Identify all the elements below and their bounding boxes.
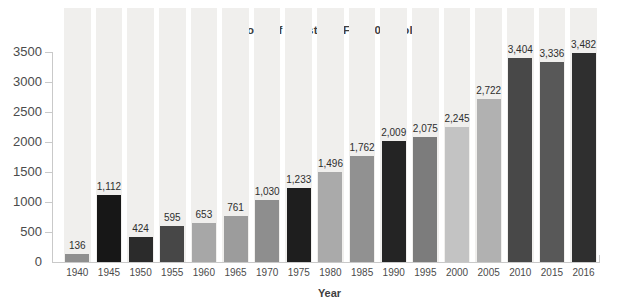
y-tick-label: 1500 (0, 165, 42, 179)
bar-cell: 761 (222, 8, 249, 262)
x-tick-label: 1985 (349, 267, 376, 278)
bar-value-label: 1,030 (255, 186, 280, 197)
x-tick-label: 2005 (475, 267, 502, 278)
bar-chart: Billions of constant (FY 2009) dollars 0… (0, 0, 619, 308)
bar-cell: 1,233 (285, 8, 312, 262)
x-tick-label: 1950 (127, 267, 154, 278)
x-tick-label: 1990 (380, 267, 407, 278)
bar (572, 53, 596, 262)
x-tick-label: 1965 (222, 267, 249, 278)
bar (192, 223, 216, 262)
bar-value-label: 1,762 (350, 142, 375, 153)
bar-cell: 3,482 (570, 8, 597, 262)
bar-value-label: 1,233 (286, 174, 311, 185)
bar (350, 156, 374, 262)
x-tick-label: 2016 (570, 267, 597, 278)
bar-cell: 1,030 (254, 8, 281, 262)
x-axis-labels: 1940194519501955196019651970197519801985… (64, 267, 597, 278)
bar-cell: 3,336 (539, 8, 566, 262)
x-tick-label: 1960 (191, 267, 218, 278)
y-axis-tick (45, 202, 52, 203)
bar-cell: 1,762 (349, 8, 376, 262)
x-axis-right-tick (599, 255, 600, 262)
bar-value-label: 1,112 (97, 181, 121, 192)
bar-cell: 3,404 (507, 8, 534, 262)
bar (445, 127, 469, 262)
y-axis-tick-labels: 0500100015002000250030003500 (0, 0, 46, 308)
x-tick-label: 1940 (64, 267, 91, 278)
bar-cell: 653 (191, 8, 218, 262)
bar-cell: 424 (127, 8, 154, 262)
bar-cell: 136 (64, 8, 91, 262)
x-tick-label: 1975 (285, 267, 312, 278)
bar (97, 195, 121, 262)
x-tick-label: 1955 (159, 267, 186, 278)
y-tick-label: 0 (0, 255, 42, 269)
y-tick-label: 2000 (0, 135, 42, 149)
bar-value-label: 3,482 (571, 39, 596, 50)
bar-cell: 595 (159, 8, 186, 262)
bar (287, 188, 311, 262)
bar (540, 62, 564, 262)
bar-cell: 2,722 (475, 8, 502, 262)
x-tick-label: 1970 (254, 267, 281, 278)
y-axis-tick (45, 82, 52, 83)
x-tick-label: 1945 (96, 267, 123, 278)
y-tick-label: 3500 (0, 45, 42, 59)
background-column (159, 8, 186, 262)
bar-value-label: 761 (227, 202, 244, 213)
x-tick-label: 2015 (539, 267, 566, 278)
x-axis-title: Year (40, 287, 619, 299)
y-axis-tick (45, 112, 52, 113)
bar-cell: 1,496 (317, 8, 344, 262)
y-axis-tick (45, 142, 52, 143)
bar-value-label: 1,496 (318, 158, 343, 169)
bar-cell: 2,245 (444, 8, 471, 262)
y-axis-tick (45, 172, 52, 173)
x-tick-label: 2010 (507, 267, 534, 278)
bar-value-label: 136 (69, 240, 86, 251)
bar-value-label: 2,009 (381, 127, 406, 138)
bar (160, 226, 184, 262)
bar (129, 237, 153, 262)
bar (255, 200, 279, 262)
bar (508, 58, 532, 262)
bar (477, 99, 501, 262)
y-tick-label: 3000 (0, 75, 42, 89)
bar (224, 216, 248, 262)
bar-value-label: 3,404 (508, 44, 533, 55)
bar-value-label: 424 (132, 223, 149, 234)
bar (65, 254, 89, 262)
bar (318, 172, 342, 262)
x-tick-label: 1980 (317, 267, 344, 278)
bar-value-label: 2,075 (413, 123, 438, 134)
x-tick-label: 2000 (444, 267, 471, 278)
bar-cell: 2,009 (380, 8, 407, 262)
y-tick-label: 2500 (0, 105, 42, 119)
bar-cell: 2,075 (412, 8, 439, 262)
bar-value-label: 2,722 (476, 85, 501, 96)
bar-cell: 1,112 (96, 8, 123, 262)
bar-value-label: 653 (196, 209, 213, 220)
bar-value-label: 2,245 (444, 113, 469, 124)
bars: 1361,1124245956537611,0301,2331,4961,762… (64, 8, 597, 262)
bar-value-label: 3,336 (539, 48, 564, 59)
background-column (64, 8, 91, 262)
bar (382, 141, 406, 262)
bar-value-label: 595 (164, 212, 181, 223)
y-tick-label: 500 (0, 225, 42, 239)
y-axis-tick (45, 232, 52, 233)
y-axis-tick (45, 52, 52, 53)
bar (413, 137, 437, 262)
x-tick-label: 1995 (412, 267, 439, 278)
y-tick-label: 1000 (0, 195, 42, 209)
y-axis-line (52, 52, 53, 262)
x-axis-line (52, 262, 600, 263)
